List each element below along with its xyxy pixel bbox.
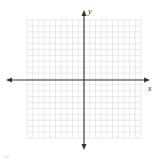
y-axis-label: y [87, 7, 92, 16]
x-axis-left-arrow-icon [6, 78, 12, 83]
x-axis-right-arrow-icon [144, 78, 150, 83]
y-axis-down-arrow-icon [82, 144, 87, 150]
x-axis-label: x [147, 84, 152, 93]
y-axis-up-arrow-icon [82, 10, 87, 16]
footer-mark: (a) [3, 154, 9, 159]
coordinate-plane: y x (a) [0, 0, 154, 163]
